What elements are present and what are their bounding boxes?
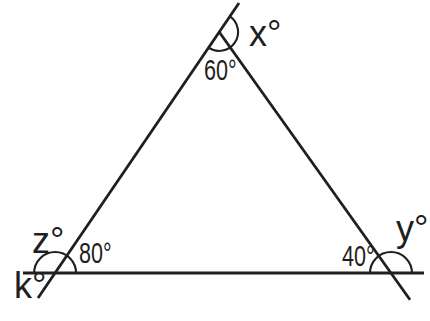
triangle-figure-svg: x° 60° z° 80° k° 40° y° [0,0,430,321]
bottom-right-vertex-angle-arc [370,252,412,273]
label-80-interior-angle: 80° [79,235,112,269]
label-k-exterior-angle: k° [14,265,46,306]
right-side-extended-line [219,32,410,300]
label-z-exterior-angle: z° [32,220,64,261]
top-vertex-angle-arc [209,16,239,51]
geometry-diagram: x° 60° z° 80° k° 40° y° [0,0,430,321]
label-60-interior-angle: 60° [204,52,237,86]
label-40-interior-angle: 40° [342,238,375,272]
label-x-exterior-angle: x° [249,13,281,54]
label-y-exterior-angle: y° [396,208,428,249]
